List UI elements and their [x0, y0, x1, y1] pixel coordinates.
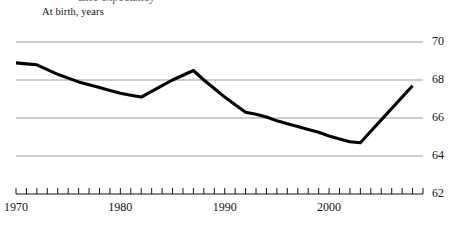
x-axis-tick-label: 1980 — [90, 200, 150, 215]
x-axis-tick-label: 1970 — [0, 200, 46, 215]
y-axis-tick-label: 70 — [432, 34, 444, 49]
y-axis-tick-label: 64 — [432, 148, 444, 163]
data-series-line — [16, 63, 413, 143]
line-chart-plot — [0, 0, 456, 228]
x-axis-ticks-group — [16, 188, 423, 194]
x-axis-tick-label: 1990 — [195, 200, 255, 215]
y-axis-tick-label: 66 — [432, 110, 444, 125]
y-axis-tick-label: 62 — [432, 186, 444, 201]
y-axis-tick-label: 68 — [432, 72, 444, 87]
chart-screenshot: Life expectancy At birth, years 70686664… — [0, 0, 456, 228]
x-axis-tick-label: 2000 — [299, 200, 359, 215]
